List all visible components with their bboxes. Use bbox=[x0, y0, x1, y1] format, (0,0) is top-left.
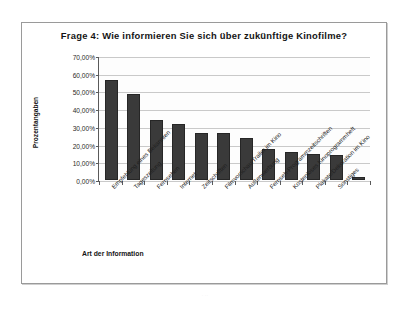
chart-page-frame: Frage 4: Wie informieren Sie sich über z… bbox=[21, 22, 387, 284]
y-tick-mark bbox=[96, 92, 99, 93]
y-tick-label: 60,00% bbox=[73, 71, 95, 78]
y-tick-mark bbox=[96, 128, 99, 129]
y-tick-mark bbox=[96, 163, 99, 164]
y-tick-mark bbox=[96, 146, 99, 147]
y-tick-mark bbox=[96, 57, 99, 58]
bar-slot bbox=[190, 57, 213, 180]
scan-footer-mark: · ·· bbox=[0, 292, 410, 298]
y-tick-mark bbox=[96, 110, 99, 111]
chart-title: Frage 4: Wie informieren Sie sich über z… bbox=[22, 30, 386, 41]
x-axis-title: Art der Information bbox=[82, 250, 144, 257]
y-tick-label: 30,00% bbox=[73, 124, 95, 131]
y-tick-label: 40,00% bbox=[73, 107, 95, 114]
y-tick-label: 20,00% bbox=[73, 142, 95, 149]
y-tick-label: 50,00% bbox=[73, 89, 95, 96]
y-tick-label: 70,00% bbox=[73, 54, 95, 61]
y-tick-label: 10,00% bbox=[73, 160, 95, 167]
x-tick-mark bbox=[370, 181, 371, 185]
y-tick-mark bbox=[96, 75, 99, 76]
bar[interactable] bbox=[195, 133, 208, 180]
bar[interactable] bbox=[105, 80, 118, 180]
bar[interactable] bbox=[352, 177, 365, 180]
y-axis-title: Prozentangaben bbox=[32, 78, 39, 168]
y-tick-label: 0,00% bbox=[76, 178, 95, 185]
bar-slot bbox=[348, 57, 371, 180]
bar-slot bbox=[100, 57, 123, 180]
x-tick-mark bbox=[99, 181, 100, 185]
bar-slot bbox=[168, 57, 191, 180]
